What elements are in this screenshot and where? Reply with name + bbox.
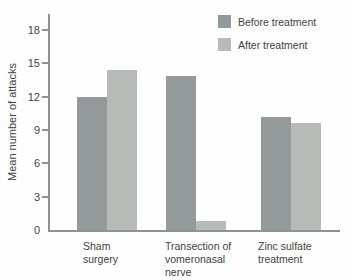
y-tick-18 <box>42 29 48 31</box>
y-tick-15 <box>42 62 48 64</box>
legend-label: Before treatment <box>238 16 316 28</box>
bar-before-treatment-2 <box>261 117 291 230</box>
y-tick-label-9: 9 <box>14 125 40 136</box>
y-tick-label-12: 12 <box>14 92 40 103</box>
legend: Before treatmentAfter treatment <box>218 15 316 61</box>
bar-after-treatment-0 <box>107 70 137 230</box>
bar-before-treatment-1 <box>166 76 196 230</box>
y-tick-label-6: 6 <box>14 158 40 169</box>
y-axis <box>48 14 50 232</box>
legend-label: After treatment <box>238 39 307 51</box>
bar-after-treatment-2 <box>291 123 321 230</box>
legend-item-1: After treatment <box>218 38 316 51</box>
category-label-1: Transection ofvomeronasalnerve <box>165 240 231 279</box>
category-label-2: Zinc sulfatetreatment <box>258 240 312 266</box>
y-tick-label-18: 18 <box>14 25 40 36</box>
y-tick-label-15: 15 <box>14 58 40 69</box>
y-tick-label-0: 0 <box>14 225 40 236</box>
bar-after-treatment-1 <box>196 221 226 230</box>
legend-swatch-icon <box>218 38 231 51</box>
bar-chart-figure: Mean number of attacks 0369121518Shamsur… <box>0 0 346 280</box>
category-label-0: Shamsurgery <box>83 240 118 266</box>
y-axis-title: Mean number of attacks <box>6 47 18 197</box>
x-axis <box>48 230 340 232</box>
legend-swatch-icon <box>218 15 231 28</box>
legend-item-0: Before treatment <box>218 15 316 28</box>
y-tick-3 <box>42 196 48 198</box>
y-tick-6 <box>42 162 48 164</box>
bar-before-treatment-0 <box>77 97 107 230</box>
y-tick-label-3: 3 <box>14 192 40 203</box>
y-tick-9 <box>42 129 48 131</box>
y-tick-12 <box>42 96 48 98</box>
